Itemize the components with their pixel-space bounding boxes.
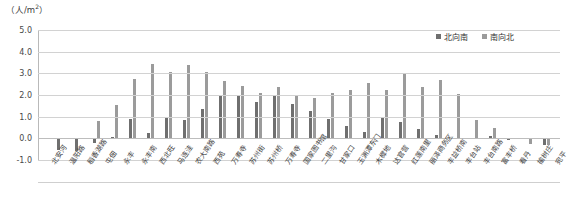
bar-南向北-达官营 [385, 90, 388, 139]
legend-item-北向南[interactable]: 北向南 [436, 31, 468, 42]
plot-area [38, 30, 560, 160]
bar-南向北-农大南路 [187, 65, 190, 139]
legend-label: 北向南 [444, 31, 468, 42]
bar-北向南-红莲南里 [399, 122, 402, 138]
gridline [38, 73, 560, 74]
legend-square-icon [436, 34, 441, 39]
gridline [38, 138, 560, 139]
bar-北向南-二里沟 [309, 111, 312, 138]
unit-caption-head: （人/m [6, 5, 35, 15]
bar-南向北-甘家口 [331, 93, 334, 139]
gridline [38, 95, 560, 96]
y-axis-tick-label: -1.0 [16, 156, 32, 165]
bar-南向北-苏州桥 [259, 93, 262, 139]
y-axis-unit-caption: （人/m2） [6, 3, 48, 15]
bar-南向北-永丰南 [133, 79, 136, 139]
y-axis-labels: 5.04.03.02.01.00.0-1.0 [0, 30, 36, 160]
bar-北向南-丽泽商务区 [417, 129, 420, 139]
bar-北向南-苏州桥 [255, 102, 258, 139]
bar-北向南-玉渊潭东门 [345, 126, 348, 138]
bar-北向南-甘家口 [327, 119, 330, 139]
bar-南向北-丰益桥南 [439, 80, 442, 139]
bar-南向北-西北旺 [151, 64, 154, 139]
unit-caption-tail: ） [39, 5, 48, 15]
bar-南向北-丰台南路 [475, 120, 478, 138]
y-axis-tick-label: 2.0 [19, 91, 32, 100]
y-axis-tick-label: 5.0 [19, 26, 32, 35]
bar-北向南-马连洼 [165, 118, 168, 139]
chart-legend: 北向南南向北 [436, 31, 514, 42]
bar-北向南-西苑 [201, 109, 204, 138]
y-axis-tick-label: 1.0 [19, 112, 32, 121]
legend-square-icon [482, 34, 487, 39]
bar-北向南-永丰南 [129, 119, 132, 139]
bar-南向北-红莲南里 [403, 74, 406, 138]
y-axis-tick-label: 4.0 [19, 47, 32, 56]
bar-北向南-农大南路 [183, 120, 186, 138]
bar-南向北-二里沟 [313, 98, 316, 138]
y-axis-tick-label: 0.0 [19, 134, 32, 143]
y-axis-tick-label: 3.0 [19, 69, 32, 78]
x-axis-labels: 北安河温阳路稻香湖路屯佃永丰永丰南西北旺马连洼农大南路西苑万寿寺苏州街苏州桥万寿… [38, 160, 560, 207]
bar-南向北-玉渊潭东门 [349, 90, 352, 139]
gridline [38, 52, 560, 53]
legend-item-南向北[interactable]: 南向北 [482, 31, 514, 42]
bar-北向南-国家图书馆 [291, 104, 294, 139]
bar-南向北-马连洼 [169, 72, 172, 138]
legend-label: 南向北 [490, 31, 514, 42]
bar-南向北-西苑 [205, 72, 208, 138]
bar-南向北-万寿寺 [223, 81, 226, 138]
bar-南向北-木樨地 [367, 83, 370, 138]
bar-南向北-永丰 [115, 105, 118, 139]
gridline [38, 117, 560, 118]
bar-北向南-达官营 [381, 118, 384, 139]
